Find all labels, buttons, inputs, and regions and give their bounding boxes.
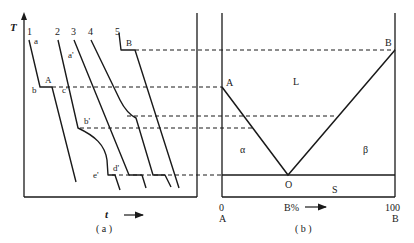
cooling-curves-panel bbox=[21, 12, 197, 197]
caption-a: ( a ) bbox=[96, 224, 112, 234]
point-label-A-curve: A bbox=[45, 76, 52, 85]
point-label-a: a bbox=[34, 37, 38, 46]
composition-axis-label: B% bbox=[284, 203, 299, 213]
composition-min-value: 0 bbox=[219, 203, 224, 213]
cooling-curves bbox=[29, 33, 179, 190]
point-label-e-prime: e' bbox=[93, 171, 99, 180]
time-axis-label: t bbox=[105, 209, 108, 220]
temperature-axis-label: T bbox=[10, 22, 17, 33]
phase-point-A: A bbox=[226, 78, 233, 88]
cooling-curve-4 bbox=[91, 40, 171, 187]
point-label-c-prime: c' bbox=[62, 86, 68, 95]
composition-max-value: 100 bbox=[385, 203, 400, 213]
region-beta-label: β bbox=[363, 145, 368, 155]
cooling-curve-5 bbox=[119, 33, 179, 188]
cooling-curve-3 bbox=[74, 40, 146, 188]
point-label-b-prime: b' bbox=[84, 117, 90, 126]
region-solid-label: S bbox=[332, 185, 338, 195]
eutectic-point-O: O bbox=[285, 180, 292, 190]
cooling-curve-2 bbox=[58, 40, 120, 190]
point-label-B-curve: B bbox=[126, 39, 132, 48]
curve-label-3: 3 bbox=[71, 27, 76, 37]
region-alpha-label: α bbox=[240, 145, 245, 155]
point-label-d-prime: d' bbox=[113, 164, 119, 173]
point-label-a-prime: a' bbox=[68, 51, 74, 60]
curve-label-4: 4 bbox=[88, 27, 93, 37]
equilibrium-phase-diagram bbox=[222, 13, 395, 197]
region-liquid-label: L bbox=[293, 77, 299, 87]
composition-max-component: B bbox=[392, 214, 399, 224]
curve-label-1: 1 bbox=[27, 27, 32, 37]
temperature-axis-arrow-icon bbox=[21, 12, 27, 20]
composition-min-component: A bbox=[219, 214, 226, 224]
point-label-b: b bbox=[32, 86, 37, 95]
caption-b: ( b ) bbox=[295, 224, 312, 234]
phase-point-B: B bbox=[385, 38, 392, 48]
phase-diagram-figure bbox=[0, 0, 414, 243]
cooling-curve-1 bbox=[29, 40, 76, 182]
curve-label-2: 2 bbox=[55, 27, 60, 37]
liquidus-line bbox=[222, 50, 395, 175]
curve-label-5: 5 bbox=[115, 27, 120, 37]
